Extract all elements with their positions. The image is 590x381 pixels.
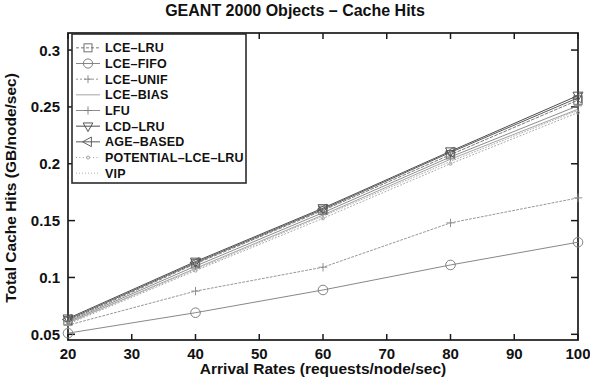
series-line (68, 242, 578, 333)
chart-figure: GEANT 2000 Objects – Cache Hits 20304050… (0, 0, 590, 381)
y-tick-label: 0.1 (39, 269, 60, 286)
legend-label: VIP (105, 167, 126, 181)
x-tick-label: 20 (60, 345, 77, 362)
legend-label: LCE–BIAS (105, 88, 168, 102)
legend-label: AGE–BASED (105, 135, 185, 149)
chart-legend[interactable]: LCE–LRULCE–FIFOLCE–UNIFLCE–BIASLFULCD–LR… (72, 34, 246, 183)
y-axis-title: Total Cache Hits (GB/node/sec) (2, 73, 19, 303)
chart-title: GEANT 2000 Objects – Cache Hits (165, 2, 425, 19)
x-axis-title: Arrival Rates (requests/node/sec) (200, 360, 446, 377)
legend-label: LFU (105, 104, 130, 118)
y-tick-label: 0.25 (31, 98, 60, 115)
x-tick-label: 30 (123, 345, 140, 362)
legend-label: LCE–FIFO (105, 57, 167, 71)
legend-label: LCD–LRU (105, 120, 165, 134)
y-tick-label: 0.3 (39, 42, 60, 59)
x-tick-label: 90 (506, 345, 523, 362)
legend-label: LCE–LRU (105, 41, 164, 55)
chart-svg: GEANT 2000 Objects – Cache Hits 20304050… (0, 0, 590, 381)
legend-label: POTENTIAL–LCE–LRU (105, 151, 244, 165)
legend-label: LCE–UNIF (105, 73, 168, 87)
x-tick-label: 100 (565, 345, 590, 362)
y-tick-label: 0.05 (31, 326, 60, 343)
y-tick-label: 0.15 (31, 212, 60, 229)
y-tick-label: 0.2 (39, 155, 60, 172)
